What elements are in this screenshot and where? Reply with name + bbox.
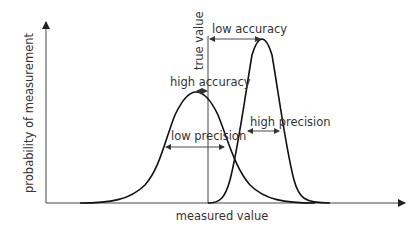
x-axis-label: measured value xyxy=(176,209,269,223)
wide-curve xyxy=(80,92,315,203)
y-axis-label: probability of measurement xyxy=(22,33,36,193)
high-accuracy-label: high accuracy xyxy=(170,75,251,89)
low-accuracy-label: low accuracy xyxy=(212,22,287,36)
accuracy-precision-diagram: probability of measurement measured valu… xyxy=(0,0,420,232)
low-precision-label: low precision xyxy=(171,129,246,143)
high-precision-label: high precision xyxy=(250,115,331,129)
true-value-label: true value xyxy=(192,11,206,70)
